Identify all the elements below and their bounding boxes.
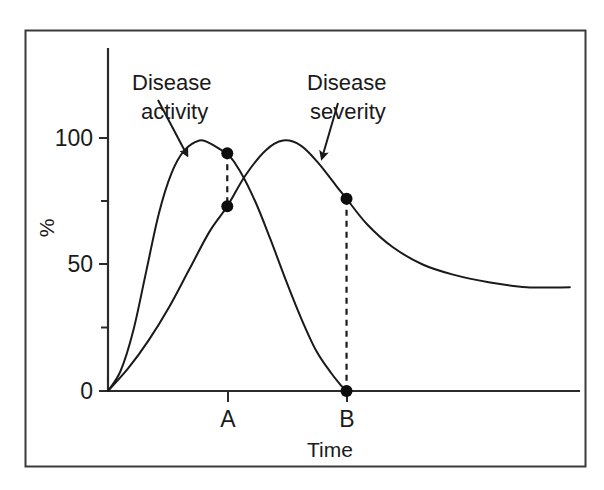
annotation-disease-severity-line2: severity <box>310 99 386 124</box>
marker-a-activity <box>221 147 233 159</box>
marker-a-severity <box>221 200 233 212</box>
x-tick-label-b: B <box>339 406 354 432</box>
x-tick-label-a: A <box>220 406 236 432</box>
figure-border <box>26 31 586 467</box>
figure-container: 0 50 100 % A B Time Disease <box>0 0 604 490</box>
y-tick-label-50: 50 <box>67 251 93 277</box>
annotation-disease-activity-line1: Disease <box>132 70 211 95</box>
annotation-disease-activity-line2: activity <box>141 99 208 124</box>
annotation-disease-severity-line1: Disease <box>307 70 386 95</box>
chart-canvas: 0 50 100 % A B Time Disease <box>0 0 604 490</box>
y-axis-title: % <box>35 219 58 238</box>
x-axis-title: Time <box>307 438 353 461</box>
y-tick-label-0: 0 <box>80 378 93 404</box>
marker-b-severity <box>341 193 353 205</box>
marker-b-activity <box>341 385 353 397</box>
y-tick-label-100: 100 <box>55 125 93 151</box>
